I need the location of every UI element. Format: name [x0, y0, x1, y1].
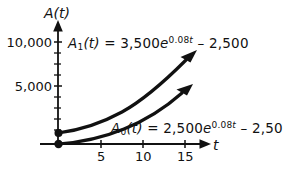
x-axis-title: t [213, 138, 219, 152]
equation-a0-base: e [203, 120, 212, 136]
equation-a1: A1(t) = 3,500e0.08t – 2,500 [68, 36, 249, 52]
y-tick-label-10000: 10,000 [0, 36, 52, 49]
x-tick-label-10: 10 [135, 150, 152, 163]
y-axis [53, 20, 63, 144]
equation-a1-base: e [160, 35, 169, 51]
equation-a1-exponent-var: t [189, 35, 193, 45]
y-axis-title: A(t) [44, 6, 70, 20]
equation-a1-constant: 2,500 [209, 35, 249, 51]
equation-a0-exponent-number: 0.08 [212, 120, 233, 130]
equation-a0-equals: = [147, 120, 159, 136]
x-tick-label-15: 15 [177, 150, 194, 163]
equation-a1-minus: – [198, 35, 205, 51]
equation-a1-exponent-number: 0.08 [169, 35, 190, 45]
exponential-growth-figure: A(t) t 10,000 5,000 5 10 15 A1(t) = 3,50… [0, 0, 283, 173]
y-tick-label-5000: 5,000 [0, 80, 52, 93]
equation-a0: A0(t) = 2,500e0.08t – 2,500 [111, 121, 283, 137]
equation-a0-coefficient: 2,500 [163, 120, 203, 136]
x-tick-label-5: 5 [97, 150, 105, 163]
equation-a1-arg: (t) [83, 35, 99, 51]
equation-a0-constant: 2,500 [252, 120, 283, 136]
curve-a0 [54, 84, 193, 148]
equation-a0-minus: – [241, 120, 248, 136]
equation-a1-equals: = [104, 35, 116, 51]
equation-a1-coefficient: 3,500 [120, 35, 160, 51]
equation-a0-arg: (t) [126, 120, 142, 136]
equation-a0-exponent-var: t [232, 120, 236, 130]
